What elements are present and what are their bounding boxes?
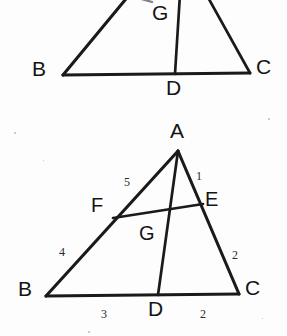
scan-speck xyxy=(262,318,263,319)
diagram-page: B C D G A B C D E F G 5 1 4 2 3 2 xyxy=(0,0,287,336)
scan-artifacts xyxy=(0,0,287,336)
scan-speck xyxy=(88,331,90,333)
scan-speck xyxy=(14,132,16,134)
scan-speck xyxy=(43,160,44,161)
scan-speck xyxy=(268,118,270,120)
